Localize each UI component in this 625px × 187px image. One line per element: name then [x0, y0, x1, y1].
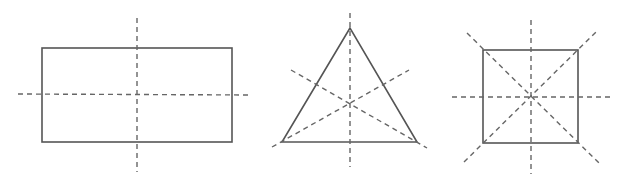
square-symmetry-line-3: [467, 33, 600, 164]
rectangle-symmetry-line-2: [18, 94, 252, 95]
rectangle-figure: [18, 18, 252, 172]
symmetry-diagram: [0, 0, 625, 187]
equilateral-triangle-symmetry-line-2: [272, 70, 409, 147]
square-figure: [452, 20, 610, 174]
equilateral-triangle-symmetry-line-3: [291, 70, 427, 148]
triangle-figure: [272, 13, 427, 167]
